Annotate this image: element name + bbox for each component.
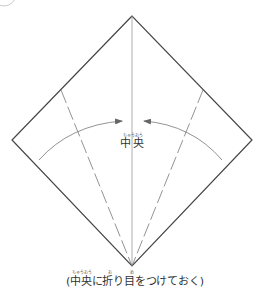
step-number-circle [0,0,16,6]
caption-ruby-me: め [130,270,134,275]
center-label-text: 中央 [117,138,149,150]
center-label: ちゅうおう 中央 [117,133,149,150]
origami-diagram: ちゅうおう 中央 ちゅうおう お め (中央に折り目をつけておく) [0,0,261,293]
caption: ちゅうおう お め (中央に折り目をつけておく) [66,270,206,289]
caption-ruby-row: ちゅうおう お め [66,270,206,275]
caption-ruby-chuuou: ちゅうおう [72,270,92,275]
caption-ruby-o: お [108,270,112,275]
caption-text: (中央に折り目をつけておく) [66,275,206,289]
